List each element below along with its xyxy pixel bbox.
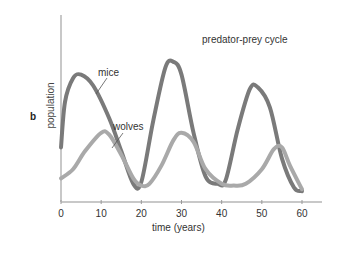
x-tick-label: 20: [131, 208, 151, 219]
x-axis-label: time (years): [152, 222, 205, 233]
mice-leader-line: [96, 78, 107, 94]
panel-label: b: [30, 111, 36, 122]
wolves-line: [61, 131, 302, 189]
x-tick-label: 40: [212, 208, 232, 219]
y-axis-label: population: [45, 76, 56, 136]
x-tick-label: 10: [91, 208, 111, 219]
mice-label: mice: [98, 67, 119, 78]
wolves-label: wolves: [113, 121, 144, 132]
x-tick-label: 30: [172, 208, 192, 219]
x-tick-label: 60: [292, 208, 312, 219]
mice-line: [61, 60, 302, 191]
x-tick-label: 50: [252, 208, 272, 219]
chart-title: predator-prey cycle: [202, 34, 288, 45]
x-tick-label: 0: [51, 208, 71, 219]
